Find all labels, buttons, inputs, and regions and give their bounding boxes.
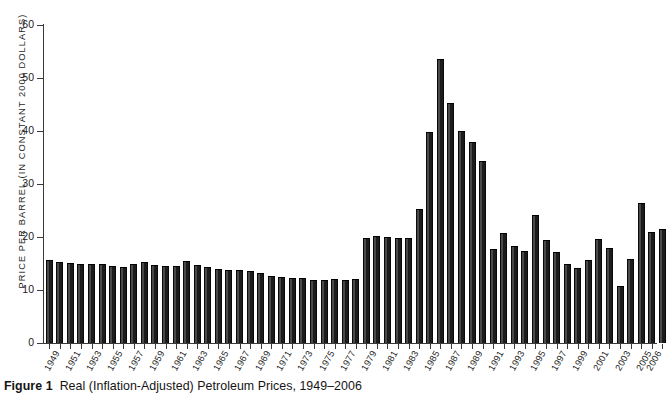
x-axis-tick [229, 344, 230, 349]
x-axis-tick-label: 1957 [127, 349, 146, 372]
y-axis-tick [37, 78, 43, 79]
x-axis-tick-label: 1983 [402, 349, 421, 372]
x-axis-tick [451, 344, 452, 349]
x-axis-tick [92, 344, 93, 349]
bar-1973 [299, 278, 306, 343]
x-axis-tick [535, 344, 536, 349]
x-axis-tick-label: 1963 [190, 349, 209, 372]
bar-1988 [458, 131, 465, 343]
bar-1977 [342, 280, 349, 343]
x-axis-tick [166, 344, 167, 349]
bar-1954 [99, 264, 106, 344]
x-axis-tick [387, 344, 388, 349]
x-axis-tick [472, 344, 473, 349]
x-axis-tick-label: 1975 [317, 349, 336, 372]
bar-1956 [120, 267, 127, 343]
x-axis-tick-label: 1967 [232, 349, 251, 372]
x-axis-tick [70, 344, 71, 349]
x-axis-tick [652, 344, 653, 349]
bar-2003 [617, 286, 624, 343]
bar-2005 [638, 203, 645, 343]
x-axis-tick [430, 344, 431, 349]
x-axis-tick [176, 344, 177, 349]
bar-1998 [564, 264, 571, 343]
x-axis-tick [208, 344, 209, 349]
x-axis-tick-label: 1955 [106, 349, 125, 372]
y-axis-tick-label: 10 [0, 283, 34, 295]
x-axis-line [43, 343, 657, 344]
x-axis-tick [218, 344, 219, 349]
bar-2001 [595, 239, 602, 343]
y-axis-tick [37, 237, 43, 238]
bar-2004 [627, 259, 634, 343]
bar-1987 [447, 103, 454, 343]
x-axis-tick-label: 1995 [528, 349, 547, 372]
bar-1952 [77, 264, 84, 343]
x-axis-tick [578, 344, 579, 349]
x-axis-tick-label: 1969 [254, 349, 273, 372]
bar-1978 [352, 279, 359, 343]
bar-1951 [67, 263, 74, 343]
x-axis-tick-label: 1997 [549, 349, 568, 372]
x-axis-tick-label: 1993 [507, 349, 526, 372]
bar-1995 [532, 215, 539, 343]
x-axis-tick-label: 2003 [613, 349, 632, 372]
x-axis-tick [102, 344, 103, 349]
bar-undefined [659, 229, 666, 343]
bar-plot-area [44, 25, 657, 343]
bar-1997 [553, 252, 560, 343]
x-axis-tick [546, 344, 547, 349]
x-axis-tick [409, 344, 410, 349]
y-axis-tick [37, 290, 43, 291]
x-axis-tick-label: 1987 [444, 349, 463, 372]
bar-1965 [215, 269, 222, 343]
x-axis-tick [557, 344, 558, 349]
x-axis-tick-label: 1999 [571, 349, 590, 372]
x-axis-tick [440, 344, 441, 349]
y-axis-tick [37, 131, 43, 132]
x-axis-tick [282, 344, 283, 349]
y-axis-tick-label: 40 [0, 124, 34, 136]
bar-1986 [437, 59, 444, 343]
x-axis-tick-label: 1971 [275, 349, 294, 372]
bar-1972 [289, 278, 296, 343]
bar-2006 [648, 232, 655, 343]
bar-2002 [606, 248, 613, 343]
x-axis-tick [187, 344, 188, 349]
x-axis-tick [60, 344, 61, 349]
bar-1957 [130, 264, 137, 344]
bar-1969 [257, 273, 264, 343]
x-axis-tick-label: 2001 [592, 349, 611, 372]
bar-1950 [56, 262, 63, 343]
bar-1974 [310, 280, 317, 343]
bar-1990 [479, 161, 486, 343]
bar-1968 [247, 271, 254, 343]
bar-1992 [500, 233, 507, 343]
caption-label: Figure [4, 379, 42, 393]
x-axis-tick-label: 1951 [63, 349, 82, 372]
x-axis-tick-label: 1973 [296, 349, 315, 372]
y-axis-tick-label: 20 [0, 230, 34, 242]
bar-1985 [426, 132, 433, 343]
x-axis-tick-label: 1949 [42, 349, 61, 372]
x-axis-tick-label: 1985 [423, 349, 442, 372]
bar-1953 [88, 264, 95, 344]
x-axis-tick [567, 344, 568, 349]
x-axis-tick [641, 344, 642, 349]
x-axis-tick [631, 344, 632, 349]
x-axis-tick-label: 1953 [84, 349, 103, 372]
x-axis-tick [366, 344, 367, 349]
x-axis-tick [345, 344, 346, 349]
y-axis-tick-label: 50 [0, 71, 34, 83]
bar-1994 [521, 251, 528, 343]
y-axis-tick-label: 30 [0, 177, 34, 189]
x-axis-tick [599, 344, 600, 349]
bar-1999 [574, 268, 581, 343]
x-axis-tick [271, 344, 272, 349]
bar-1971 [278, 277, 285, 343]
bar-1949 [46, 260, 53, 343]
x-axis-tick [398, 344, 399, 349]
y-axis-tick [37, 184, 43, 185]
x-axis-tick [377, 344, 378, 349]
x-axis-tick-label: 1991 [486, 349, 505, 372]
